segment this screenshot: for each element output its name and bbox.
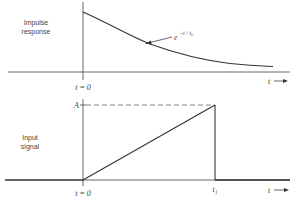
exponential-decay-curve xyxy=(83,12,273,67)
input-x-label: t xyxy=(268,186,271,195)
annotation-leader-line xyxy=(148,37,172,43)
input-signal-panel: Input signal A t = 0 t₁ t xyxy=(5,99,290,198)
input-ylabel-line2: signal xyxy=(21,143,40,151)
impulse-response-panel: Impulse response e −t / t₀ t = 0 t xyxy=(8,2,290,92)
input-ylabel-line1: Input xyxy=(22,134,38,142)
impulse-ylabel-line2: response xyxy=(22,28,51,36)
ramp-line xyxy=(83,105,215,180)
curve-label-base: e xyxy=(174,33,178,42)
impulse-x-label: t xyxy=(268,77,271,86)
curve-label-exponent: −t / t₀ xyxy=(179,30,193,36)
impulse-ylabel-line1: Impulse xyxy=(24,19,49,27)
input-origin-label: t = 0 xyxy=(75,189,91,198)
amplitude-label: A xyxy=(73,101,79,110)
impulse-origin-label: t = 0 xyxy=(75,83,91,92)
end-time-label: t₁ xyxy=(212,185,217,194)
impulse-t-arrow-icon xyxy=(283,79,288,83)
input-t-arrow-icon xyxy=(284,188,289,192)
impulse-input-diagram: Impulse response e −t / t₀ t = 0 t Input… xyxy=(0,0,303,203)
